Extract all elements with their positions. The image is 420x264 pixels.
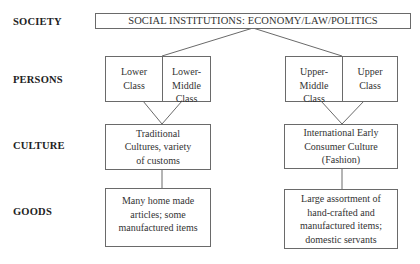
goods-right-line: domestic servants	[300, 233, 382, 247]
goods-left-box: Many home made articles; some manufactur…	[105, 188, 211, 247]
connector-upper-class-to-culture	[342, 101, 364, 124]
upper-class-line: Class	[358, 79, 383, 93]
lower-middle-class-line: Lower-	[172, 65, 201, 79]
goods-left-line: Many home made	[118, 194, 197, 208]
culture-left-line: of customs	[125, 154, 192, 168]
society-box-label: SOCIAL INSTITUTIONS: ECONOMY/LAW/POLITIC…	[128, 14, 378, 28]
connector-lower-class-to-culture	[143, 101, 162, 124]
lower-class-box: Lower Class	[105, 56, 163, 102]
connector-society-to-lower	[162, 28, 253, 56]
goods-left-line: articles; some	[118, 208, 197, 222]
society-box: SOCIAL INSTITUTIONS: ECONOMY/LAW/POLITIC…	[95, 13, 411, 29]
lower-class-line: Lower	[121, 65, 147, 79]
goods-right-box: Large assortment of hand-crafted and man…	[284, 189, 398, 249]
lower-middle-class-line: Class	[172, 92, 201, 106]
goods-right-line: Large assortment of	[300, 192, 382, 206]
upper-middle-class-line: Middle	[300, 79, 329, 93]
lower-middle-class-box: Lower- Middle Class	[162, 56, 211, 102]
culture-right-line: International Early	[303, 126, 378, 140]
culture-left-box: Traditional Cultures, variety of customs	[105, 124, 211, 170]
goods-right-line: hand-crafted and	[300, 206, 382, 220]
lower-class-line: Class	[121, 79, 147, 93]
upper-class-box: Upper Class	[342, 56, 398, 102]
upper-middle-class-line: Class	[300, 92, 329, 106]
culture-right-line: (Fashion)	[303, 153, 378, 167]
culture-right-line: Consumer Culture	[303, 140, 378, 154]
upper-middle-class-line: Upper-	[300, 65, 329, 79]
goods-right-line: manufactured items;	[300, 219, 382, 233]
culture-left-line: Traditional	[125, 127, 192, 141]
culture-right-box: International Early Consumer Culture (Fa…	[284, 124, 398, 169]
culture-left-line: Cultures, variety	[125, 140, 192, 154]
lower-middle-class-line: Middle	[172, 79, 201, 93]
upper-middle-class-box: Upper- Middle Class	[285, 56, 343, 102]
connector-society-to-upper	[253, 28, 342, 56]
goods-left-line: manufactured items	[118, 221, 197, 235]
upper-class-line: Upper	[358, 65, 383, 79]
